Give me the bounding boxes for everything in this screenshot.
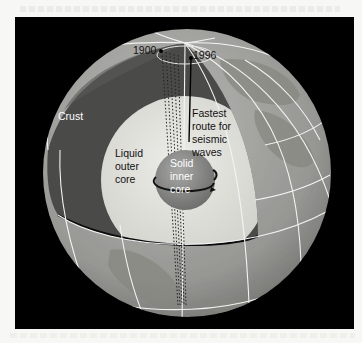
label-solid-2: inner [170, 170, 194, 182]
marker-1900 [159, 49, 163, 53]
label-fastest-3: seismic [192, 133, 227, 145]
label-fastest-2: route for [192, 120, 232, 132]
label-solid-3: core [170, 183, 191, 195]
label-1900: 1900 [133, 44, 157, 56]
label-crust: Crust [58, 110, 83, 122]
label-1996: 1996 [193, 49, 217, 61]
label-fastest-1: Fastest [192, 107, 227, 119]
label-solid-1: Solid [170, 157, 194, 169]
label-liquid-1: Liquid [115, 147, 143, 159]
label-liquid-3: core [115, 173, 136, 185]
label-fastest-4: waves [191, 146, 222, 158]
earth-cutaway-diagram: 1900 1996 Crust Fastest route for seismi… [0, 0, 362, 343]
label-liquid-2: outer [115, 160, 139, 172]
